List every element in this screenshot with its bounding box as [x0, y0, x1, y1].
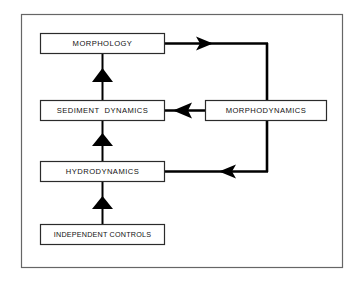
node-box-morphology[interactable]	[41, 34, 165, 54]
node-box-hydrodynamics[interactable]	[41, 162, 165, 182]
diagram-canvas: MORPHOLOGY SEDIMENT DYNAMICS HYDRODYNAMI…	[0, 0, 363, 283]
node-box-morphodynamics[interactable]	[206, 101, 327, 121]
flow-diagram	[0, 0, 363, 283]
node-box-independent-controls[interactable]	[41, 225, 165, 245]
node-box-sediment-dynamics[interactable]	[41, 101, 165, 121]
